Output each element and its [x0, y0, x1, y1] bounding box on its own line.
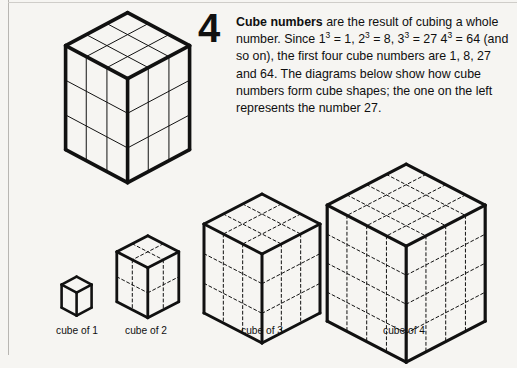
article-body: Cube numbers are the result of cubing a … [236, 14, 514, 117]
article-paragraph: are the result of cubing a whole number.… [236, 15, 508, 115]
cube-diagram-1 [56, 271, 97, 321]
cube-caption-1: cube of 1 [56, 325, 98, 336]
article-heading: Cube numbers [236, 15, 323, 29]
cube-caption-3: cube of 3 [241, 325, 283, 336]
cube-diagram-4 [321, 158, 491, 368]
cube-diagram-2 [111, 230, 185, 324]
cube-diagram-hero [59, 6, 196, 189]
cube-caption-2: cube of 2 [125, 325, 167, 336]
section-number: 4 [198, 8, 219, 48]
cube-caption-4: cube of 4 [383, 325, 425, 336]
page-rule-vertical [8, 0, 9, 355]
page-rule-horizontal [8, 2, 517, 3]
